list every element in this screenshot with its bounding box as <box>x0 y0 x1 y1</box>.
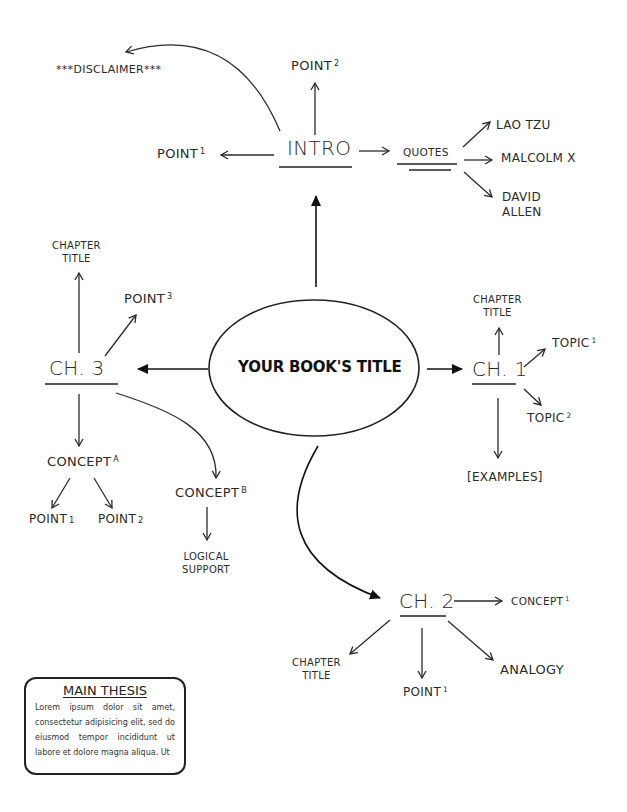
ch2-point1-text: POINT <box>403 685 441 699</box>
concept-a-text: CONCEPT <box>47 454 111 469</box>
concept-a-label: CONCEPTA <box>47 454 119 470</box>
intro-point1-text: POINT <box>157 146 198 161</box>
quote-lao-tzu: LAO TZU <box>496 118 551 133</box>
concept-a-point2-sub: 2 <box>138 515 144 525</box>
ch2-chapter-title: CHAPTER TITLE <box>292 657 341 682</box>
ch1-chapter-title: CHAPTER TITLE <box>473 294 522 319</box>
concept-b-text: CONCEPT <box>175 485 239 500</box>
ch3-node: CH. 3 <box>49 356 105 381</box>
central-title: YOUR BOOK'S TITLE <box>238 358 402 376</box>
ch1-topic2-label: TOPIC2 <box>527 411 571 426</box>
link-ch3-conceptb <box>116 393 216 478</box>
intro-point1-sup: 1 <box>200 147 205 156</box>
link-concepta-point2 <box>94 478 112 508</box>
link-concepta-point1 <box>52 478 70 508</box>
ch1-topic2-text: TOPIC <box>527 411 564 425</box>
link-ch2-analogy <box>448 621 493 660</box>
ch3-point3-sup: 3 <box>167 292 172 301</box>
concept-a-sup: A <box>113 455 119 464</box>
quote-malcolm-x: MALCOLM X <box>501 151 576 166</box>
logical-support-line2: SUPPORT <box>182 564 230 577</box>
intro-point2-sup: 2 <box>334 59 339 68</box>
main-thesis-box: MAIN THESIS Lorem ipsum dolor sit amet, … <box>24 677 186 775</box>
concept-a-point2-text: POINT <box>98 512 136 526</box>
disclaimer-label: ***DISCLAIMER*** <box>56 63 161 77</box>
ch1-node: CH. 1 <box>472 357 528 382</box>
ch1-topic1-text: TOPIC <box>552 336 589 350</box>
ch2-concept1-sup: 1 <box>565 595 569 603</box>
ch2-chapter-title-line1: CHAPTER <box>292 657 341 670</box>
link-quotes-laotzu <box>463 122 490 147</box>
ch1-chapter-title-line2: TITLE <box>473 307 522 320</box>
mind-map-canvas: YOUR BOOK'S TITLE INTRO ***DISCLAIMER***… <box>0 0 627 812</box>
link-quotes-david <box>464 172 492 197</box>
intro-point2-text: POINT <box>291 58 332 73</box>
ch3-chapter-title: CHAPTER TITLE <box>52 240 101 265</box>
quotes-node: QUOTES <box>403 146 449 159</box>
concept-a-point1-text: POINT <box>29 512 67 526</box>
ch2-concept1-label: CONCEPT1 <box>511 595 570 608</box>
ch2-chapter-title-line2: TITLE <box>292 670 341 683</box>
main-thesis-body: Lorem ipsum dolor sit amet, consectetur … <box>35 700 175 760</box>
link-ch1-topic2 <box>524 389 541 405</box>
concept-b-sup: B <box>241 486 247 495</box>
intro-point2-label: POINT2 <box>291 58 340 74</box>
concept-a-point2: POINT2 <box>98 512 144 527</box>
ch2-point1-sup: 1 <box>443 685 448 694</box>
main-thesis-heading: MAIN THESIS <box>35 683 175 698</box>
logical-support-label: LOGICAL SUPPORT <box>182 551 230 576</box>
intro-point1-label: POINT1 <box>157 146 206 162</box>
quote-david: DAVID <box>502 190 542 205</box>
ch3-chapter-title-line1: CHAPTER <box>52 240 101 253</box>
ch1-examples-label: [EXAMPLES] <box>467 470 543 485</box>
ch1-chapter-title-line1: CHAPTER <box>473 294 522 307</box>
ch2-analogy-label: ANALOGY <box>500 662 564 678</box>
link-center-ch2 <box>297 446 380 598</box>
link-intro-disclaimer <box>126 45 280 131</box>
ch3-chapter-title-line2: TITLE <box>52 253 101 266</box>
ch2-node: CH. 2 <box>399 589 455 614</box>
quote-david-allen: DAVID ALLEN <box>502 190 542 220</box>
concept-a-point1-sub: 1 <box>69 515 75 525</box>
intro-node: INTRO <box>287 136 351 161</box>
link-ch2-chaptertitle <box>350 620 390 654</box>
concept-b-label: CONCEPTB <box>175 485 247 501</box>
ch3-point3-label: POINT3 <box>124 291 173 307</box>
ch2-point1-label: POINT1 <box>403 685 448 700</box>
ch2-concept1-text: CONCEPT <box>511 595 563 607</box>
concept-a-point1: POINT1 <box>29 512 75 527</box>
ch1-topic1-label: TOPIC1 <box>552 336 596 351</box>
ch1-topic1-sup: 1 <box>591 336 596 345</box>
logical-support-line1: LOGICAL <box>182 551 230 564</box>
quote-allen: ALLEN <box>502 205 542 220</box>
link-ch3-point3 <box>105 315 136 356</box>
ch1-topic2-sup: 2 <box>566 411 571 420</box>
ch3-point3-text: POINT <box>124 291 165 306</box>
